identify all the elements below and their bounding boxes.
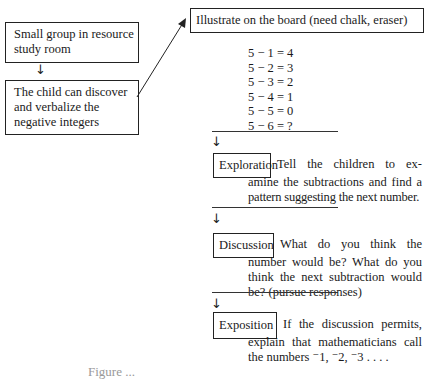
down-arrow-icon: ↓ [211,135,222,148]
separator-line [212,292,338,293]
exposition-line-2: explain that mathematicians call [248,335,422,350]
equation-4: 5 − 4 = 1 [248,90,293,105]
separator-line [212,207,338,208]
equation-5: 5 − 5 = 0 [248,104,293,119]
discussion-line-2: number would be? What do you [248,255,422,270]
equation-2: 5 − 2 = 3 [248,61,293,76]
exposition-first-line: If the discussion permits, [283,317,422,332]
down-arrow-icon: ↓ [211,212,222,225]
exploration-line-3: pattern suggesting the next number. [248,190,428,205]
exposition-label: Exposition [219,318,273,332]
exposition-line-3: the numbers ⁻1, ⁻2, ⁻3 . . . . [248,350,422,365]
discussion-first-line: What do you think the [280,237,422,252]
illustrate-box: Illustrate on the board (need chalk, era… [190,8,424,33]
separator-line [212,131,338,132]
exploration-first-line: Tell the children to ex- [277,157,422,172]
discussion-label: Discussion [219,238,274,252]
equation-1: 5 − 1 = 4 [248,46,293,61]
figure-caption: Figure ... [88,364,135,380]
discussion-line-3: think the next subtraction would [248,270,422,285]
illustrate-text: Illustrate on the board (need chalk, era… [196,13,407,27]
exploration-line-2: amine the subtractions and find a [248,175,422,190]
down-arrow-icon: ↓ [211,297,222,310]
exploration-label: Exploration [219,158,278,172]
equation-3: 5 − 3 = 2 [248,75,293,90]
